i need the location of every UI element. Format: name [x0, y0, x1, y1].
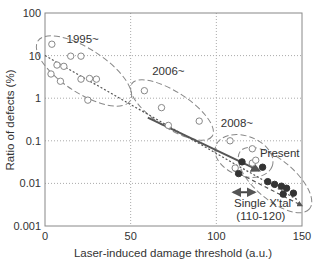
point-2006: [141, 87, 147, 93]
point-1995: [86, 75, 92, 81]
point-2006: [165, 122, 171, 128]
point-present: [265, 178, 271, 184]
point-1995: [68, 53, 74, 59]
point-1995: [54, 62, 60, 68]
point-1995: [78, 76, 84, 82]
point-1995: [93, 76, 99, 82]
x-axis-label: Laser-induced damage threshold (a.u.): [74, 247, 272, 259]
annotation-label: Single X'tal: [234, 197, 291, 209]
point-present: [290, 190, 296, 196]
point-1995: [48, 71, 54, 77]
scatter-chart: 0501001500.0010.010.1110100 1995~2006~20…: [0, 0, 332, 267]
y-tick-label: 0.01: [20, 177, 41, 189]
point-present: [283, 185, 289, 191]
annotation-label: 1995~: [67, 33, 100, 45]
point-2006: [158, 104, 164, 110]
point-2006: [196, 118, 202, 124]
point-present: [235, 170, 241, 176]
x-tick-label: 150: [293, 230, 311, 242]
point-2008: [253, 157, 259, 163]
point-1995: [57, 78, 63, 84]
x-tick-label: 100: [207, 230, 225, 242]
annotations: 1995~2006~2008~PresentSingle X'tal(110-1…: [67, 33, 301, 222]
point-1995: [49, 41, 55, 47]
ellipse-2006: [122, 69, 222, 151]
x-tick-label: 50: [125, 230, 137, 242]
y-axis-label: Ratio of defects (%): [4, 69, 16, 170]
point-1995: [78, 53, 84, 59]
point-present: [271, 181, 277, 187]
point-present: [259, 164, 265, 170]
y-tick-label: 100: [23, 7, 41, 19]
annotation-label: (110-120): [236, 210, 285, 222]
annotation-label: Present: [260, 147, 300, 159]
point-1995: [61, 63, 67, 69]
point-1995: [85, 97, 91, 103]
point-2008: [249, 146, 255, 152]
x-tick-label: 0: [42, 230, 48, 242]
point-present: [239, 159, 245, 165]
y-tick-label: 10: [29, 50, 41, 62]
y-tick-label: 1: [35, 92, 41, 104]
annotation-label: 2006~: [152, 65, 185, 77]
point-2008: [227, 138, 233, 144]
y-tick-label: 0.1: [26, 135, 41, 147]
y-tick-label: 0.001: [13, 220, 41, 232]
annotation-label: 2008~: [221, 117, 254, 129]
